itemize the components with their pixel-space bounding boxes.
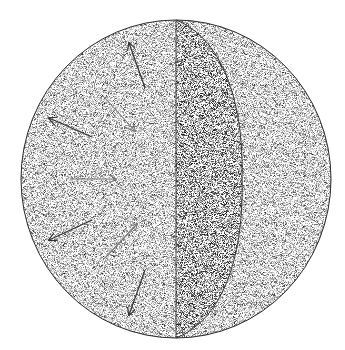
sphere-diagram [0, 0, 345, 350]
